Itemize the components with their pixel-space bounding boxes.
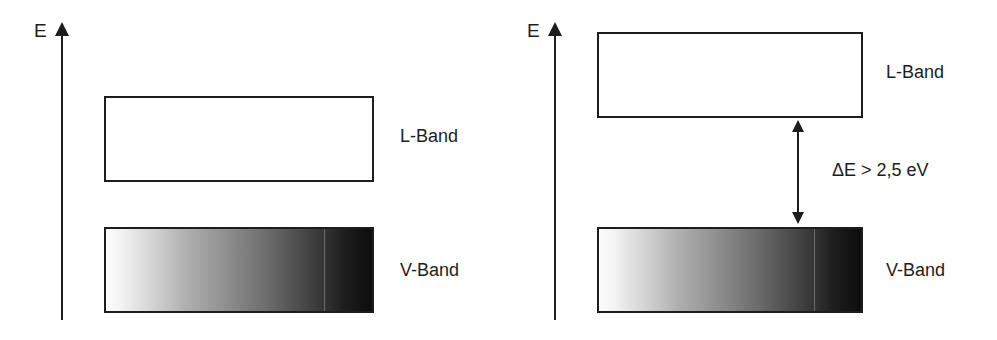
energy-axis-label-right: E — [527, 21, 540, 40]
v-band-label-right: V-Band — [886, 261, 945, 279]
band-gap-energy-label: ΔE > 2,5 eV — [832, 161, 929, 179]
axis-shaft — [554, 31, 556, 320]
energy-axis-left — [52, 22, 72, 320]
v-band-box-left — [104, 227, 374, 313]
band-gap-arrow-icon — [791, 120, 805, 224]
l-band-box-right — [597, 32, 863, 118]
v-band-label-left: V-Band — [400, 261, 459, 279]
l-band-label-left: L-Band — [400, 127, 458, 145]
l-band-label-right: L-Band — [886, 63, 944, 81]
arrow-head-down-icon — [792, 212, 804, 224]
axis-shaft — [61, 31, 63, 320]
energy-axis-label-left: E — [34, 21, 47, 40]
l-band-box-left — [104, 96, 374, 182]
v-band-box-right — [597, 227, 863, 313]
energy-axis-right — [545, 22, 565, 320]
arrow-shaft — [797, 130, 799, 214]
panel-right-insulator-band-diagram: E L-Band ΔE > 2,5 eV V-Band — [490, 0, 997, 340]
panel-left-conductor-band-diagram: E L-Band V-Band — [0, 0, 500, 340]
energy-band-figure: E L-Band V-Band E L-Band ΔE > 2,5 eV V-B… — [0, 0, 997, 340]
